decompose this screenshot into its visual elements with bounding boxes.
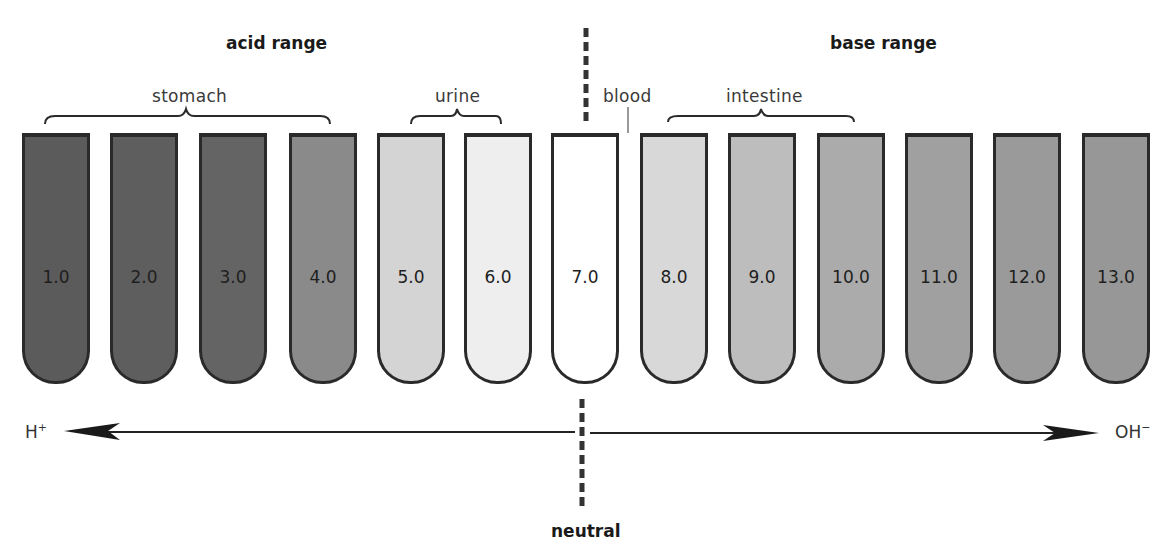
ph-value: 3.0 [202,267,264,287]
test-tube: 1.0 [22,133,90,384]
test-tube: 6.0 [464,133,532,384]
ph-value: 8.0 [643,267,705,287]
test-tube: 7.0 [551,133,619,384]
test-tube: 5.0 [377,133,445,384]
ph-value: 13.0 [1085,267,1147,287]
test-tube: 12.0 [993,133,1061,384]
hydrogen-ion-label: H+ [25,421,47,442]
test-tube: 9.0 [728,133,796,384]
ph-value: 4.0 [292,267,354,287]
test-tube: 11.0 [905,133,973,384]
ph-value: 7.0 [554,267,616,287]
ph-value: 10.0 [820,267,882,287]
ph-value: 9.0 [731,267,793,287]
ph-value: 2.0 [113,267,175,287]
stomach-brace [45,109,330,124]
intestine-brace [668,109,854,122]
test-tube: 2.0 [110,133,178,384]
test-tube: 3.0 [199,133,267,384]
hydroxide-ion-label: OH− [1115,421,1150,442]
ph-value: 12.0 [996,267,1058,287]
neutral-label: neutral [551,521,621,541]
urine-brace [411,109,501,124]
test-tube: 4.0 [289,133,357,384]
ph-value: 11.0 [908,267,970,287]
test-tube: 10.0 [817,133,885,384]
ph-value: 1.0 [25,267,87,287]
ph-value: 6.0 [467,267,529,287]
ph-value: 5.0 [380,267,442,287]
test-tube: 13.0 [1082,133,1150,384]
test-tube: 8.0 [640,133,708,384]
